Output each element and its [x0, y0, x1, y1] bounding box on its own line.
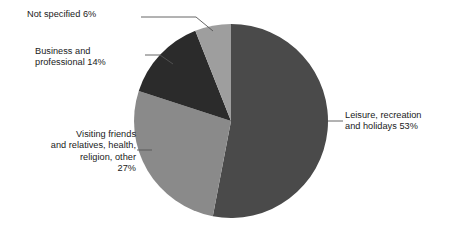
- slice-label-leisure: Leisure, recreation and holidays 53%: [345, 110, 451, 133]
- pie-slices: [134, 24, 328, 218]
- slice-label-business: Business and professional 14%: [35, 46, 141, 69]
- slice-label-visiting-friends: Visiting friends and relatives, health, …: [6, 129, 136, 175]
- slice-label-not-specified: Not specified 6%: [27, 9, 143, 20]
- pie-chart-figure: Not specified 6% Business and profession…: [0, 0, 452, 226]
